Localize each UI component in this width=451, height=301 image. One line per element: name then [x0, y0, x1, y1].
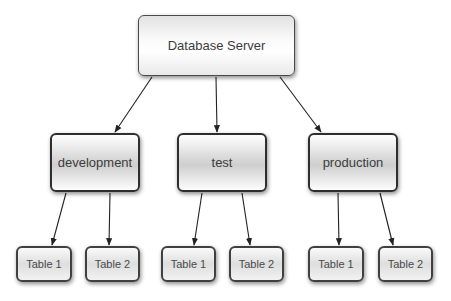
node-label: Table 2 — [95, 258, 130, 270]
node-label: Database Server — [168, 38, 266, 53]
edge-development-table1 — [52, 193, 66, 245]
node-dev-table-2[interactable]: Table 2 — [85, 246, 140, 282]
node-label: Table 1 — [171, 258, 206, 270]
edge-test-table2 — [242, 193, 250, 245]
node-development[interactable]: development — [50, 133, 140, 192]
edge-development-table2 — [109, 193, 110, 245]
node-label: Table 1 — [318, 258, 353, 270]
node-test[interactable]: test — [177, 133, 267, 192]
edge-test-table1 — [194, 193, 202, 245]
node-label: production — [323, 155, 384, 170]
node-prod-table-2[interactable]: Table 2 — [378, 246, 433, 282]
node-test-table-2[interactable]: Table 2 — [229, 246, 284, 282]
node-label: Table 2 — [239, 258, 274, 270]
edge-root-production — [280, 77, 321, 132]
node-production[interactable]: production — [308, 133, 398, 192]
node-label: Table 1 — [26, 258, 61, 270]
node-label: test — [212, 155, 233, 170]
node-test-table-1[interactable]: Table 1 — [161, 246, 216, 282]
node-dev-table-1[interactable]: Table 1 — [16, 246, 72, 282]
node-label: development — [58, 155, 132, 170]
edge-production-table2 — [380, 193, 393, 245]
node-database-server[interactable]: Database Server — [138, 15, 295, 76]
edge-production-table1 — [338, 193, 339, 245]
diagram-canvas: Database Server development test product… — [0, 0, 451, 301]
node-prod-table-1[interactable]: Table 1 — [308, 246, 364, 282]
node-label: Table 2 — [388, 258, 423, 270]
edge-root-test — [216, 77, 217, 132]
edge-root-development — [115, 77, 152, 132]
